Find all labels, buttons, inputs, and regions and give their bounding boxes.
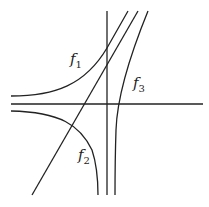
label-f2: f2 xyxy=(78,148,90,166)
function-graph-diagram: f1 f2 f3 xyxy=(0,0,209,207)
plot-svg xyxy=(0,0,209,207)
label-f1: f1 xyxy=(70,52,82,70)
curve-f3 xyxy=(115,11,148,195)
label-f3: f3 xyxy=(133,76,145,94)
oblique-line xyxy=(32,11,138,195)
